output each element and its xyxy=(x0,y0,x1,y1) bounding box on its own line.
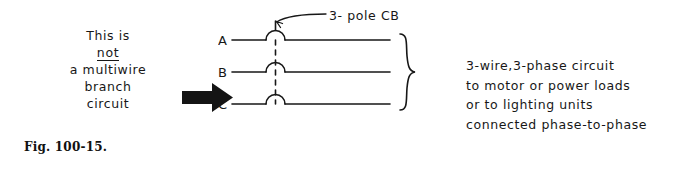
right-note-line-1: 3-wire,3-phase circuit xyxy=(466,56,647,76)
phase-label-b: B xyxy=(218,65,227,80)
right-annotation-block: 3-wire,3-phase circuit to motor or power… xyxy=(466,56,647,134)
left-note-line-1: This is xyxy=(28,27,188,44)
left-annotation-block: This is not a multiwire branch circuit xyxy=(28,27,188,112)
phase-label-c: C xyxy=(218,97,227,112)
right-note-line-3: or to lighting units xyxy=(466,95,647,115)
left-note-line-5: circuit xyxy=(28,95,188,112)
left-note-line-3: a multiwire xyxy=(28,61,188,78)
figure-canvas: This is not a multiwire branch circuit F… xyxy=(0,0,697,173)
left-note-line-4: branch xyxy=(28,78,188,95)
figure-caption: Fig. 100-15. xyxy=(24,140,107,154)
right-note-line-4: connected phase-to-phase xyxy=(466,115,647,135)
phase-label-a: A xyxy=(218,33,227,48)
circuit-diagram: A B C xyxy=(218,0,468,144)
right-note-line-2: to motor or power loads xyxy=(466,76,647,96)
left-note-line-2: not xyxy=(28,44,188,61)
